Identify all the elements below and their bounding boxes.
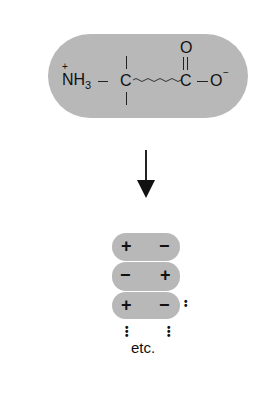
right-continuation-dots: ••• <box>167 326 171 338</box>
row3-left-sign: + <box>121 296 132 314</box>
arrow-down-icon <box>137 180 155 198</box>
bond-up <box>126 56 127 69</box>
amine-label: NH <box>62 71 85 88</box>
row2-right-sign: + <box>160 266 171 284</box>
row1-right-sign: − <box>159 237 170 255</box>
backbone-wave-icon <box>133 76 183 84</box>
arrow-shaft <box>145 150 147 182</box>
amine-group: NH3 <box>62 72 91 91</box>
carbonyl-oxygen: O <box>180 40 192 56</box>
bond-n-c <box>98 81 108 82</box>
side-continuation-dots: •• <box>184 300 188 308</box>
minus-charge: − <box>223 68 229 78</box>
double-bond-1 <box>183 57 184 70</box>
carbonyl-carbon: C <box>180 73 192 89</box>
double-bond-2 <box>187 57 188 70</box>
etc-label: etc. <box>131 340 155 355</box>
left-continuation-dots: ••• <box>125 326 129 338</box>
row1-left-sign: + <box>121 237 132 255</box>
alpha-carbon: C <box>120 73 132 89</box>
amine-subscript: 3 <box>85 79 91 91</box>
row2-left-sign: − <box>120 266 131 284</box>
carboxylate-oxygen: O <box>210 73 222 89</box>
bond-c-o <box>197 81 208 82</box>
bond-down <box>126 92 127 105</box>
row3-right-sign: − <box>159 296 170 314</box>
